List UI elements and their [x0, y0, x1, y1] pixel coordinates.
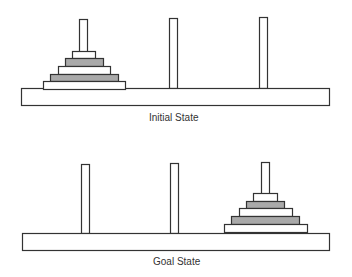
initial-state-caption: Initial State	[149, 112, 198, 123]
base-platform	[23, 234, 330, 251]
peg-2	[170, 19, 178, 89]
peg-2	[171, 164, 179, 234]
peg-3	[260, 18, 268, 89]
disk-1	[73, 52, 96, 59]
disk-1	[254, 194, 278, 202]
base-platform	[22, 89, 330, 106]
goal-state-panel	[23, 163, 330, 251]
disk-3	[240, 209, 293, 217]
disk-2	[66, 59, 104, 67]
disk-4	[232, 217, 300, 225]
disk-5	[225, 225, 308, 233]
disk-5	[44, 82, 126, 90]
tower-of-hanoi-diagram	[0, 0, 352, 277]
peg-1	[82, 165, 90, 234]
disk-3	[59, 67, 111, 75]
disk-4	[51, 75, 119, 82]
disk-2	[247, 202, 285, 209]
goal-state-caption: Goal State	[153, 256, 200, 267]
initial-state-panel	[22, 18, 330, 106]
